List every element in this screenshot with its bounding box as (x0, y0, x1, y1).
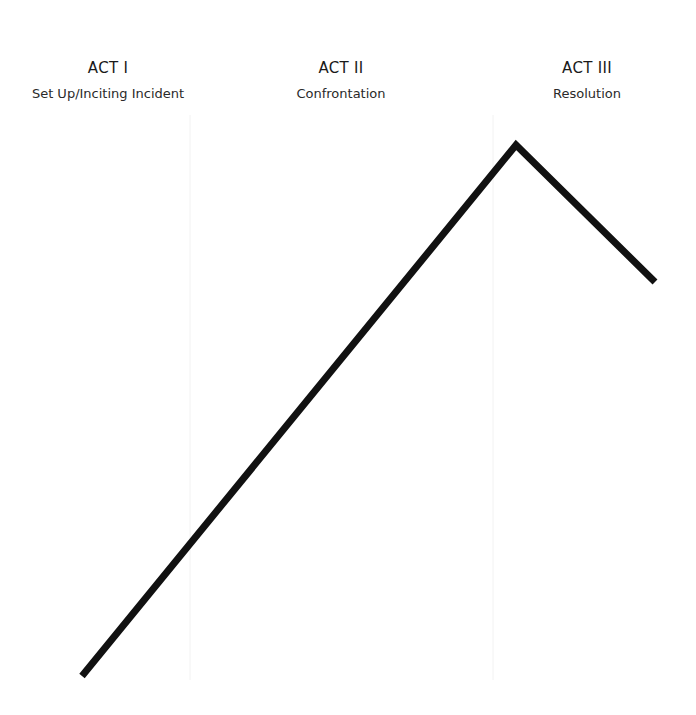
story-arc-diagram (0, 0, 696, 715)
story-arc-line (82, 145, 655, 676)
